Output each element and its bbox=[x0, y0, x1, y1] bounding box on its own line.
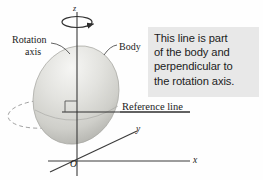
callout-line-2: of the body and bbox=[154, 45, 254, 59]
label-reference-line: Reference line bbox=[122, 101, 183, 112]
callout-line-3: perpendicular to bbox=[154, 59, 254, 73]
callout-line-4: the rotation axis. bbox=[154, 74, 254, 88]
label-axis-y: y bbox=[136, 124, 140, 134]
label-axis-z: z bbox=[73, 4, 76, 13]
callout-line-1: This line is part bbox=[154, 31, 254, 45]
label-axis-x: x bbox=[193, 155, 197, 165]
callout-box: This line is part of the body and perpen… bbox=[148, 27, 259, 97]
label-rotation-axis-line1: Rotation bbox=[12, 34, 46, 45]
label-origin: O bbox=[70, 159, 77, 169]
label-body: Body bbox=[119, 41, 141, 52]
label-rotation-axis-line2: axis bbox=[25, 46, 41, 57]
